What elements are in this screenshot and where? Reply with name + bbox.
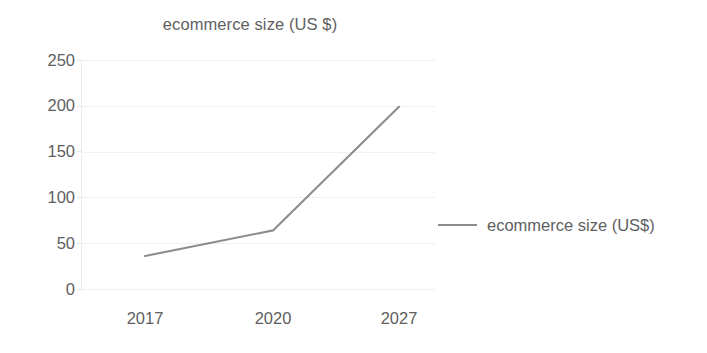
category-axis-labels: 2017 2020 2027 bbox=[0, 310, 707, 336]
legend-entry-label: ecommerce size (US$) bbox=[487, 217, 655, 234]
category-axis-tick-label: 2020 bbox=[255, 310, 292, 327]
chart-legend: ecommerce size (US$) bbox=[438, 214, 655, 236]
series-line-ecommerce-size bbox=[145, 107, 399, 256]
category-axis-tick-label: 2017 bbox=[127, 310, 164, 327]
series-line-layer bbox=[0, 0, 707, 353]
category-axis-tick-label: 2027 bbox=[381, 310, 418, 327]
legend-line-marker-icon bbox=[438, 224, 477, 226]
chart-container: ecommerce size (US $) 250 200 150 100 50… bbox=[0, 0, 707, 353]
